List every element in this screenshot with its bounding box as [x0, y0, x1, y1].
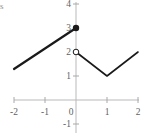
x-tick-label--2: -2: [10, 107, 18, 117]
x-tick-label-1: 1: [105, 107, 110, 117]
plot-canvas: -2 -1 0 1 2 4 3 2 1 -1: [0, 0, 142, 135]
x-tick-label-2: 2: [136, 107, 141, 117]
y-tick-label-2: 2: [66, 47, 71, 57]
x-tick-label-0: 0: [69, 107, 74, 117]
closed-endpoint-marker: [73, 25, 79, 31]
y-tick-label--1: -1: [63, 119, 71, 129]
series-right-branch: [76, 52, 138, 76]
y-tick-label-1: 1: [66, 71, 71, 81]
x-tick-labels: -2 -1 0 1 2: [10, 107, 141, 117]
x-tick-label--1: -1: [41, 107, 49, 117]
y-tick-label-4: 4: [66, 0, 71, 9]
open-endpoint-marker: [73, 49, 79, 55]
axes-group: [14, 2, 139, 133]
piecewise-function-plot: s. -2 -1 0 1 2 4 3 2: [0, 0, 142, 135]
